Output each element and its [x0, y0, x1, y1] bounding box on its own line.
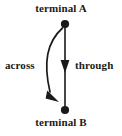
through-arrowhead-icon: [61, 60, 70, 73]
terminal-b-label: terminal B: [0, 117, 122, 128]
terminal-a-label: terminal A: [0, 3, 122, 14]
terminal-b-node-dot: [61, 106, 69, 114]
across-curve: [47, 28, 63, 92]
across-arrowhead-icon: [46, 91, 59, 102]
terminal-diagram: terminal A terminal B across through: [0, 0, 122, 136]
across-label: across: [5, 60, 35, 71]
through-label: through: [75, 60, 113, 71]
terminal-a-node-dot: [61, 20, 69, 28]
